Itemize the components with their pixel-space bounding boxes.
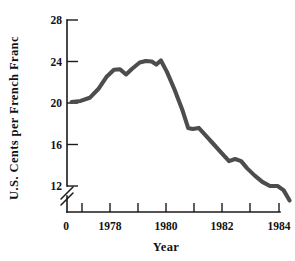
chart-container: U.S. Cents per French Franc 28 24 20 16 … bbox=[0, 0, 295, 261]
x-axis-ticks bbox=[82, 203, 279, 212]
y-tick-label-28: 28 bbox=[51, 14, 63, 26]
y-axis-break-icon bbox=[61, 187, 73, 212]
y-tick-label-24: 24 bbox=[51, 56, 63, 68]
line-chart-plot: U.S. Cents per French Franc 28 24 20 16 … bbox=[0, 0, 295, 261]
x-axis-title: Year bbox=[153, 240, 180, 254]
x-tick-label-1980: 1980 bbox=[155, 220, 178, 232]
y-tick-label-20: 20 bbox=[51, 97, 63, 109]
y-axis-title: U.S. Cents per French Franc bbox=[7, 36, 21, 200]
origin-label: 0 bbox=[63, 220, 69, 232]
y-tick-label-12: 12 bbox=[51, 180, 63, 192]
x-tick-label-1982: 1982 bbox=[211, 220, 234, 232]
x-tick-label-1984: 1984 bbox=[268, 220, 291, 232]
data-series-line bbox=[72, 60, 290, 200]
y-tick-label-16: 16 bbox=[51, 139, 63, 151]
x-tick-label-1978: 1978 bbox=[99, 220, 122, 232]
